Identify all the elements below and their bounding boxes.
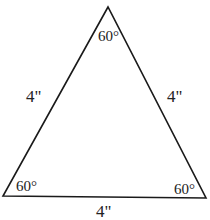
side-label-left: 4" <box>26 87 41 106</box>
angle-label-bottom-right: 60° <box>174 181 195 197</box>
triangle-diagram: 60° 60° 60° 4" 4" 4" <box>0 0 210 220</box>
side-label-right: 4" <box>167 87 182 106</box>
angle-label-top: 60° <box>98 28 119 44</box>
side-label-bottom: 4" <box>96 202 111 220</box>
angle-label-bottom-left: 60° <box>16 178 37 194</box>
triangle-svg: 60° 60° 60° 4" 4" 4" <box>0 0 210 220</box>
